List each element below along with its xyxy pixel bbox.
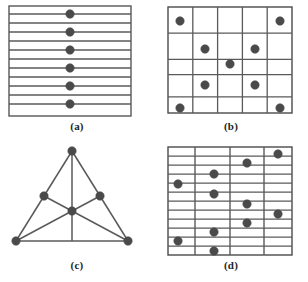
configuration-point: [66, 10, 74, 18]
configuration-point: [210, 247, 218, 255]
panel-c-segments: [16, 151, 128, 241]
configuration-point: [251, 81, 259, 89]
configuration-point: [96, 192, 104, 200]
configuration-point: [226, 60, 234, 68]
configuration-point: [12, 237, 20, 245]
configuration-point: [274, 150, 282, 158]
configuration-point: [210, 190, 218, 198]
configuration-point: [243, 219, 251, 227]
configuration-point: [68, 207, 76, 215]
configuration-point: [66, 64, 74, 72]
panel-d: (d): [154, 141, 308, 282]
panel-d-caption: (d): [154, 259, 308, 271]
panel-a-caption: (a): [0, 120, 154, 132]
configuration-point: [66, 28, 74, 36]
configuration-point: [210, 170, 218, 178]
configuration-point: [66, 46, 74, 54]
panel-a-horizontal-lines: [9, 6, 131, 116]
configuration-point: [40, 192, 48, 200]
configuration-point: [243, 159, 251, 167]
panel-c-caption: (c): [0, 259, 154, 271]
panel-b-caption: (b): [154, 120, 308, 132]
configuration-point: [174, 237, 182, 245]
configuration-point: [176, 104, 184, 112]
configuration-point: [210, 228, 218, 236]
configuration-point: [66, 100, 74, 108]
configuration-point: [274, 210, 282, 218]
panel-c: (c): [0, 141, 154, 282]
configuration-point: [68, 147, 76, 155]
configuration-point: [124, 237, 132, 245]
configuration-point: [276, 17, 284, 25]
configuration-point: [66, 82, 74, 90]
configuration-point: [174, 180, 182, 188]
configuration-point: [276, 104, 284, 112]
configuration-point: [176, 17, 184, 25]
panel-b: (b): [154, 0, 308, 141]
configuration-point: [201, 81, 209, 89]
configuration-point: [243, 200, 251, 208]
panel-a: (a): [0, 0, 154, 141]
configuration-point: [201, 45, 209, 53]
configuration-point: [251, 45, 259, 53]
figure-root: (a) (b) (c): [0, 0, 308, 282]
